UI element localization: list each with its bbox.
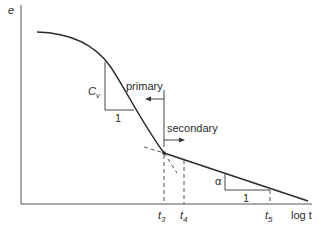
secondary-label: secondary xyxy=(167,122,218,134)
x-axis-label: log t xyxy=(291,209,312,221)
consolidation-diagram: e Cv 1 primary secondary α 1 t3 t4 t5 lo… xyxy=(0,0,330,235)
intersection-point xyxy=(162,151,166,155)
cv-label: Cv xyxy=(88,85,101,100)
secondary-arrowhead-icon xyxy=(179,138,185,143)
t3-label: t3 xyxy=(158,209,166,224)
primary-consolidation-curve xyxy=(37,32,164,153)
primary-run-label: 1 xyxy=(115,112,121,124)
alpha-label: α xyxy=(215,175,222,187)
secondary-run-label: 1 xyxy=(243,192,249,204)
primary-label: primary xyxy=(126,80,163,92)
secondary-compression-line xyxy=(164,153,308,201)
t4-label: t4 xyxy=(180,209,188,224)
t5-label: t5 xyxy=(265,209,273,224)
y-axis-label: e xyxy=(8,4,14,16)
primary-arrowhead-icon xyxy=(145,97,151,102)
